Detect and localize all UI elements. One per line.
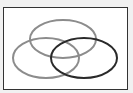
venn-diagram: [0, 0, 133, 93]
